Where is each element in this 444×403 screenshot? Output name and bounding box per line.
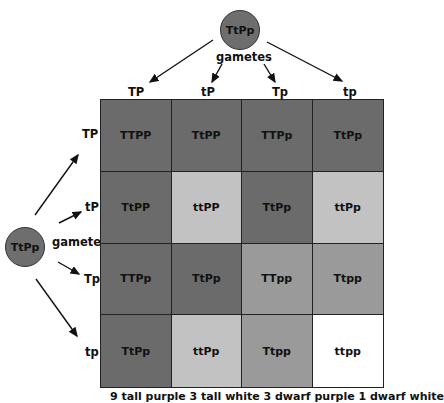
arrow-to-TP-col	[150, 40, 213, 82]
arrow-to-Tp-col	[264, 64, 275, 82]
punnett-cell: Ttpp	[313, 244, 384, 316]
row-gamete-2: tP	[85, 200, 99, 214]
col-gamete-4: tp	[343, 85, 357, 99]
punnett-cell: ttPp	[172, 315, 243, 387]
row-gamete-1: TP	[82, 127, 98, 141]
punnett-cell: TtPp	[101, 315, 172, 387]
punnett-cell: TTpp	[242, 244, 313, 316]
col-gamete-3: Tp	[272, 85, 288, 99]
top-parent-circle: TtPp	[220, 10, 260, 50]
punnett-cell: Ttpp	[242, 315, 313, 387]
left-parent-circle: TtPp	[5, 227, 45, 267]
col-gamete-1: TP	[128, 85, 144, 99]
punnett-cell: TTPp	[242, 100, 313, 172]
punnett-cell: ttPP	[172, 172, 243, 244]
arrow-to-tP-col	[212, 64, 222, 82]
arrow-to-tp-row	[36, 279, 77, 336]
arrow-to-tP-row	[59, 212, 81, 223]
punnett-cell: TtPP	[101, 172, 172, 244]
arrow-to-TP-row	[35, 155, 78, 215]
punnett-cell: TTPP	[101, 100, 172, 172]
punnett-cell: TtPp	[242, 172, 313, 244]
phenotype-ratio-caption: 9 tall purple 3 tall white 3 dwarf purpl…	[110, 390, 444, 403]
punnett-cell: TtPp	[172, 244, 243, 316]
punnett-cell: TTPp	[101, 244, 172, 316]
punnett-cell: TtPP	[172, 100, 243, 172]
col-gamete-2: tP	[201, 85, 215, 99]
punnett-cell: TtPp	[313, 100, 384, 172]
top-gametes-label: gametes	[216, 50, 272, 64]
punnett-square: TTPPTtPPTTPpTtPpTtPPttPPTtPpttPpTTPpTtPp…	[100, 99, 384, 388]
arrow-to-tp-col	[267, 42, 342, 81]
punnett-cell: ttPp	[313, 172, 384, 244]
punnett-cell: ttpp	[313, 315, 384, 387]
row-gamete-3: Tp	[84, 272, 100, 286]
row-gamete-4: tp	[85, 345, 99, 359]
arrow-to-Tp-row	[58, 262, 79, 274]
